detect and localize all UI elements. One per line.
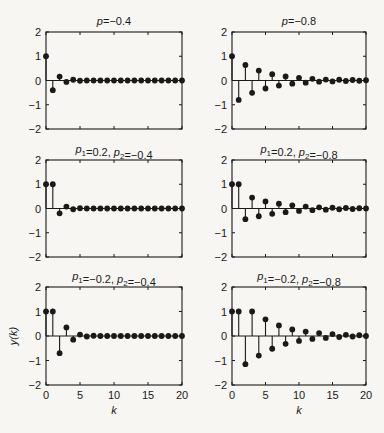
stem-marker — [64, 79, 70, 85]
stem-marker — [323, 335, 329, 341]
stem-marker — [172, 206, 178, 212]
stem-marker — [350, 206, 356, 212]
stem-marker — [289, 81, 295, 87]
stem-marker — [125, 78, 131, 84]
stem-marker — [356, 78, 362, 84]
stem-marker — [138, 206, 144, 212]
y-tick-label: 0 — [221, 75, 227, 87]
stem-marker — [276, 83, 282, 89]
x-tick-label: 10 — [108, 389, 120, 401]
stem-marker — [98, 78, 104, 84]
stem-marker — [336, 77, 342, 83]
subplot-6: p1=−0.2, p2=−0.8−2−101205101520 — [214, 270, 372, 401]
y-tick-label: −1 — [28, 99, 41, 111]
stem-marker — [236, 181, 242, 187]
stem-marker — [229, 181, 235, 187]
y-tick-label: 0 — [221, 203, 227, 215]
stem-marker — [316, 330, 322, 336]
stem-marker — [111, 333, 117, 339]
stem-marker — [132, 206, 138, 212]
y-tick-label: 2 — [221, 281, 227, 293]
stem-marker — [350, 77, 356, 83]
stem-marker — [138, 78, 144, 84]
stem-marker — [91, 206, 97, 212]
stem-marker — [159, 333, 165, 339]
y-tick-label: 1 — [221, 306, 227, 318]
y-tick-label: −2 — [28, 379, 41, 391]
stem-marker — [64, 204, 70, 210]
subplot-2: p=−0.8−2−1012 — [214, 15, 368, 135]
stem-marker — [111, 206, 117, 212]
stem-marker — [118, 78, 124, 84]
stem-marker — [336, 334, 342, 340]
stem-marker — [179, 78, 185, 84]
stem-marker — [323, 77, 329, 83]
stem-marker — [50, 181, 56, 187]
stem-marker — [256, 68, 262, 74]
stem-marker — [243, 216, 249, 222]
stem-marker — [104, 78, 110, 84]
y-tick-label: 1 — [221, 50, 227, 62]
stem-marker — [84, 334, 90, 340]
subplot-title: p1=−0.2, p2=−0.8 — [256, 270, 341, 288]
stem-marker — [91, 78, 97, 84]
y-tick-label: −2 — [214, 251, 227, 263]
stem-marker — [323, 207, 329, 213]
stem-marker — [269, 346, 275, 352]
y-tick-label: 0 — [35, 75, 41, 87]
stem-marker — [64, 325, 70, 331]
stem-marker — [363, 206, 369, 212]
stem-marker — [152, 206, 158, 212]
stem-marker — [70, 337, 76, 343]
x-axis-label: k — [296, 404, 302, 416]
x-tick-label: 5 — [77, 389, 83, 401]
stem-marker — [310, 207, 316, 213]
stem-marker — [145, 78, 151, 84]
stem-marker — [243, 361, 249, 367]
stem-marker — [50, 87, 56, 93]
subplot-title: p1=0.2, p2=−0.4 — [74, 143, 152, 161]
x-tick-label: 15 — [326, 389, 338, 401]
stem-marker — [363, 77, 369, 83]
stem-marker — [343, 78, 349, 84]
stem-marker — [104, 333, 110, 339]
stem-marker — [138, 333, 144, 339]
stem-marker — [356, 205, 362, 211]
subplot-title: p1=−0.2, p2=−0.4 — [71, 270, 156, 288]
subplot-4: p1=0.2, p2=−0.8−2−1012 — [214, 143, 368, 263]
stem-marker — [263, 199, 269, 205]
stem-marker — [236, 97, 242, 103]
stem-marker — [172, 333, 178, 339]
y-tick-label: 2 — [221, 154, 227, 166]
y-tick-label: −1 — [214, 227, 227, 239]
subplot-title: p=−0.8 — [281, 15, 316, 27]
stem-marker — [84, 206, 90, 212]
stem-marker — [132, 333, 138, 339]
stem-marker — [132, 78, 138, 84]
stem-marker — [57, 74, 63, 80]
stem-marker — [77, 205, 83, 211]
stem-marker — [125, 206, 131, 212]
stem-marker — [159, 206, 165, 212]
stem-marker — [229, 309, 235, 315]
y-tick-label: −2 — [214, 123, 227, 135]
stem-marker — [316, 79, 322, 85]
stem-marker — [98, 333, 104, 339]
subplot-title: p=−0.4 — [96, 15, 131, 27]
y-tick-label: 0 — [35, 203, 41, 215]
stem-marker — [330, 79, 336, 85]
y-tick-label: −1 — [28, 227, 41, 239]
x-tick-label: 0 — [43, 389, 49, 401]
stem-marker — [356, 332, 362, 338]
x-tick-label: 5 — [262, 389, 268, 401]
stem-marker — [269, 71, 275, 77]
stem-marker — [145, 206, 151, 212]
stem-marker — [363, 333, 369, 339]
stem-marker — [289, 326, 295, 332]
stem-marker — [336, 206, 342, 212]
y-tick-label: 2 — [221, 26, 227, 38]
stem-marker — [310, 76, 316, 82]
y-tick-label: 1 — [35, 178, 41, 190]
y-axis-label: y(k) — [7, 327, 19, 347]
stem-marker — [263, 316, 269, 322]
